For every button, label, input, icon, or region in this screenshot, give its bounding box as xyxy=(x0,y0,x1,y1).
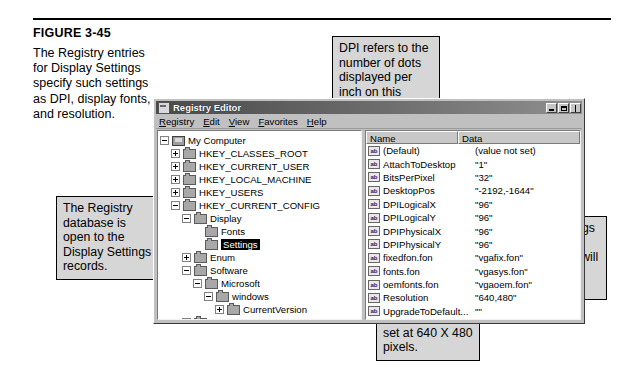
menu-bar: RegistryEditViewFavoritesHelp xyxy=(156,115,582,129)
menu-item-favorites[interactable]: Favorites xyxy=(258,116,297,127)
tree-node-software[interactable]: Software xyxy=(160,264,361,277)
column-header-data[interactable]: Data xyxy=(458,131,580,144)
value-row[interactable]: abfonts.fon"vgasys.fon" xyxy=(366,265,580,278)
value-row[interactable]: abDPILogicalY"96" xyxy=(366,211,580,224)
tree-node-hkey-classes-root[interactable]: HKEY_CLASSES_ROOT xyxy=(160,147,361,160)
value-row[interactable]: abBitsPerPixel"32" xyxy=(366,171,580,184)
menu-item-registry[interactable]: Registry xyxy=(159,116,194,127)
string-value-icon: ab xyxy=(368,293,380,303)
value-data: (value not set) xyxy=(475,145,580,156)
collapse-minus-icon[interactable] xyxy=(182,214,191,223)
figure-label: FIGURE 3-45 xyxy=(33,26,111,40)
restore-button[interactable] xyxy=(558,103,569,113)
tree-node-label: HKEY_CURRENT_CONFIG xyxy=(199,200,320,211)
tree-node-hkey-current-user[interactable]: HKEY_CURRENT_USER xyxy=(160,160,361,173)
window-title-bar[interactable]: Registry Editor xyxy=(156,101,582,114)
tree-node-enum[interactable]: Enum xyxy=(160,251,361,264)
value-name: fixedfon.fon xyxy=(383,252,475,263)
tree-node-my-computer[interactable]: My Computer xyxy=(160,134,361,147)
expand-plus-icon[interactable] xyxy=(171,188,180,197)
value-row[interactable]: abResolution"640,480" xyxy=(366,291,580,304)
expand-plus-icon[interactable] xyxy=(182,253,191,262)
registry-values-pane[interactable]: Name Data ab(Default)(value not set)abAt… xyxy=(365,130,581,320)
expand-plus-icon[interactable] xyxy=(171,162,180,171)
window-title: Registry Editor xyxy=(173,102,241,113)
tree-node-windows[interactable]: windows xyxy=(160,290,361,303)
menu-item-view[interactable]: View xyxy=(229,116,250,127)
tree-node-label: System xyxy=(210,317,242,320)
tree-node-label: HKEY_LOCAL_MACHINE xyxy=(199,174,312,185)
registry-editor-icon xyxy=(158,102,170,114)
tree-node-display[interactable]: Display xyxy=(160,212,361,225)
collapse-minus-icon[interactable] xyxy=(182,266,191,275)
folder-icon xyxy=(205,227,218,237)
value-row[interactable]: abDPIPhysicalY"96" xyxy=(366,238,580,251)
value-row[interactable]: ab(Default)(value not set) xyxy=(366,144,580,157)
tree-node-label: Microsoft xyxy=(221,278,260,289)
menu-item-edit[interactable]: Edit xyxy=(203,116,220,127)
tree-node-label: Settings xyxy=(221,239,260,250)
folder-icon xyxy=(205,279,218,289)
tree-node-label: Enum xyxy=(210,252,235,263)
folder-icon xyxy=(194,253,207,263)
value-data: "-2192,-1644" xyxy=(475,185,580,196)
folder-icon xyxy=(183,149,196,159)
tree-node-label: HKEY_CURRENT_USER xyxy=(199,161,309,172)
expand-plus-icon[interactable] xyxy=(171,175,180,184)
value-name: Resolution xyxy=(383,292,475,303)
close-button[interactable] xyxy=(570,103,581,113)
value-row[interactable]: abDPILogicalX"96" xyxy=(366,198,580,211)
value-data: "vgasys.fon" xyxy=(475,266,580,277)
folder-icon xyxy=(183,175,196,185)
string-value-icon: ab xyxy=(368,159,380,169)
column-header-name[interactable]: Name xyxy=(366,131,458,144)
tree-node-hkey-current-config[interactable]: HKEY_CURRENT_CONFIG xyxy=(160,199,361,212)
value-name: DesktopPos xyxy=(383,185,475,196)
callout-registry-database: The Registry database is open to the Dis… xyxy=(56,196,160,280)
string-value-icon: ab xyxy=(368,226,380,236)
registry-tree-pane[interactable]: My ComputerHKEY_CLASSES_ROOTHKEY_CURRENT… xyxy=(157,130,362,320)
figure-top-rule xyxy=(33,18,611,20)
value-name: (Default) xyxy=(383,145,475,156)
folder-icon xyxy=(183,162,196,172)
folder-icon xyxy=(183,201,196,211)
menu-item-help[interactable]: Help xyxy=(307,116,327,127)
tree-node-system[interactable]: System xyxy=(160,316,361,320)
tree-node-currentversion[interactable]: CurrentVersion xyxy=(160,303,361,316)
string-value-icon: ab xyxy=(368,280,380,290)
collapse-minus-icon[interactable] xyxy=(193,279,202,288)
collapse-minus-icon[interactable] xyxy=(204,292,213,301)
folder-icon xyxy=(183,188,196,198)
expand-plus-icon[interactable] xyxy=(215,305,224,314)
value-row[interactable]: abfixedfon.fon"vgafix.fon" xyxy=(366,251,580,264)
value-row[interactable]: abDPIPhysicalX"96" xyxy=(366,224,580,237)
folder-icon xyxy=(216,292,229,302)
tree-node-label: Fonts xyxy=(221,226,245,237)
window-controls xyxy=(546,103,582,113)
expand-plus-icon[interactable] xyxy=(182,318,191,320)
value-name: DPILogicalX xyxy=(383,199,475,210)
tree-node-settings[interactable]: Settings xyxy=(160,238,361,251)
value-row[interactable]: abUpgradeToDefault..."" xyxy=(366,305,580,318)
expand-plus-icon[interactable] xyxy=(171,149,180,158)
collapse-minus-icon[interactable] xyxy=(171,201,180,210)
tree-node-label: HKEY_USERS xyxy=(199,187,264,198)
tree-node-label: CurrentVersion xyxy=(243,304,307,315)
string-value-icon: ab xyxy=(368,239,380,249)
string-value-icon: ab xyxy=(368,253,380,263)
figure-caption: The Registry entries for Display Setting… xyxy=(33,46,161,122)
tree-node-hkey-users[interactable]: HKEY_USERS xyxy=(160,186,361,199)
value-row[interactable]: abAttachToDesktop"1" xyxy=(366,157,580,170)
values-list: ab(Default)(value not set)abAttachToDesk… xyxy=(366,144,580,318)
string-value-icon: ab xyxy=(368,146,380,156)
value-data: "" xyxy=(475,306,580,317)
value-row[interactable]: abDesktopPos"-2192,-1644" xyxy=(366,184,580,197)
collapse-minus-icon[interactable] xyxy=(160,136,169,145)
tree-node-fonts[interactable]: Fonts xyxy=(160,225,361,238)
minimize-button[interactable] xyxy=(546,103,557,113)
registry-editor-window[interactable]: Registry Editor RegistryEditViewFavorite… xyxy=(153,98,585,324)
tree-node-hkey-local-machine[interactable]: HKEY_LOCAL_MACHINE xyxy=(160,173,361,186)
tree-node-microsoft[interactable]: Microsoft xyxy=(160,277,361,290)
value-row[interactable]: aboemfonts.fon"vgaoem.fon" xyxy=(366,278,580,291)
value-name: DPIPhysicalX xyxy=(383,226,475,237)
